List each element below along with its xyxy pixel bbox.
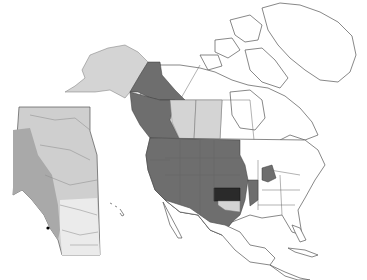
kansas [214, 188, 240, 201]
saskatchewan [194, 100, 222, 140]
map-canvas [0, 0, 367, 280]
florida [292, 225, 306, 242]
alberta-inset [13, 107, 100, 255]
hawaii [110, 203, 124, 216]
western-us-range [146, 138, 248, 235]
alberta-inset-marker [46, 226, 49, 229]
central-america [270, 265, 310, 280]
cuba [288, 248, 318, 257]
